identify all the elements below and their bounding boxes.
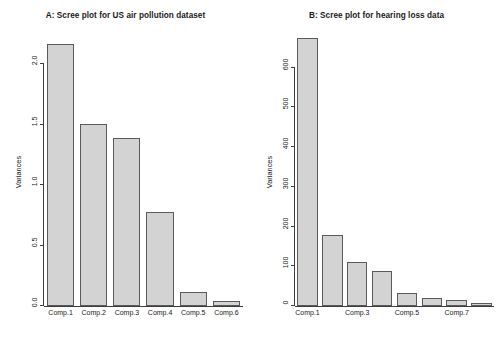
y-axis-tick-label: 300 — [282, 178, 289, 190]
x-axis-tick-label: Comp.1 — [48, 309, 73, 316]
bar-slot — [345, 28, 370, 306]
bar-slot — [177, 28, 210, 306]
x-axis-tick-label: Comp.7 — [444, 309, 469, 316]
bar — [322, 235, 342, 306]
y-axis-a: 0.00.51.01.52.0 — [34, 28, 44, 306]
y-axis-tick-label: 1.5 — [31, 116, 38, 126]
scree-plot-figure: A: Scree plot for US air pollution datas… — [0, 0, 502, 344]
y-axis-b: 0100200300400500600 — [285, 28, 295, 306]
bar — [347, 262, 367, 306]
bar-slot — [110, 28, 143, 306]
chart-panel-a: A: Scree plot for US air pollution datas… — [0, 0, 251, 344]
x-axis-tick-label: Comp.3 — [345, 309, 370, 316]
x-axis-line-a — [44, 306, 243, 307]
x-axis-tick-label: Comp.4 — [148, 309, 173, 316]
x-axis-tick-label: Comp.3 — [115, 309, 140, 316]
bar-slot — [143, 28, 176, 306]
bar-slot — [395, 28, 420, 306]
bar-group-a — [44, 28, 243, 306]
y-axis-tick-label: 0.0 — [31, 298, 38, 308]
bar-slot — [44, 28, 77, 306]
plot-area-b: 0100200300400500600 Comp.1Comp.3Comp.5Co… — [295, 28, 494, 306]
bar-group-b — [295, 28, 494, 306]
bar — [146, 212, 173, 306]
chart-title-a: A: Scree plot for US air pollution datas… — [0, 11, 251, 20]
y-axis-tick-label: 1.0 — [31, 177, 38, 187]
bar-slot — [370, 28, 395, 306]
bar — [80, 124, 107, 307]
y-axis-tick-label: 400 — [282, 138, 289, 150]
bar — [397, 293, 417, 306]
bar — [422, 298, 442, 306]
x-axis-line-b — [295, 306, 494, 307]
y-axis-tick-label: 2.0 — [31, 56, 38, 66]
x-axis-labels-b: Comp.1Comp.3Comp.5Comp.7 — [295, 309, 494, 321]
bar — [297, 38, 317, 306]
x-axis-tick-label: Comp.1 — [295, 309, 320, 316]
bar-slot — [419, 28, 444, 306]
x-axis-tick-label: Comp.5 — [181, 309, 206, 316]
bar-slot — [77, 28, 110, 306]
y-axis-label-a: Variances — [14, 156, 23, 188]
x-axis-tick-label: Comp.5 — [395, 309, 420, 316]
y-axis-tick-label: 200 — [282, 217, 289, 229]
x-axis-tick-label: Comp.6 — [214, 309, 239, 316]
bar-slot — [469, 28, 494, 306]
bar-slot — [210, 28, 243, 306]
y-axis-tick-label: 600 — [282, 58, 289, 70]
y-axis-tick-label: 0 — [282, 301, 289, 305]
bar — [180, 292, 207, 307]
bar — [372, 271, 392, 306]
bar-slot — [444, 28, 469, 306]
y-axis-label-b: Variances — [265, 156, 274, 188]
chart-panel-b: B: Scree plot for hearing loss data Vari… — [251, 0, 502, 344]
chart-title-b: B: Scree plot for hearing loss data — [251, 11, 502, 20]
y-axis-tick-label: 0.5 — [31, 237, 38, 247]
bar — [47, 44, 74, 306]
bar-slot — [295, 28, 320, 306]
y-axis-tick-label: 500 — [282, 98, 289, 110]
plot-area-a: 0.00.51.01.52.0 Comp.1Comp.2Comp.3Comp.4… — [44, 28, 243, 306]
bar — [113, 138, 140, 306]
bar-slot — [320, 28, 345, 306]
x-axis-labels-a: Comp.1Comp.2Comp.3Comp.4Comp.5Comp.6 — [44, 309, 243, 321]
y-axis-tick-label: 100 — [282, 257, 289, 269]
x-axis-tick-label: Comp.2 — [81, 309, 106, 316]
